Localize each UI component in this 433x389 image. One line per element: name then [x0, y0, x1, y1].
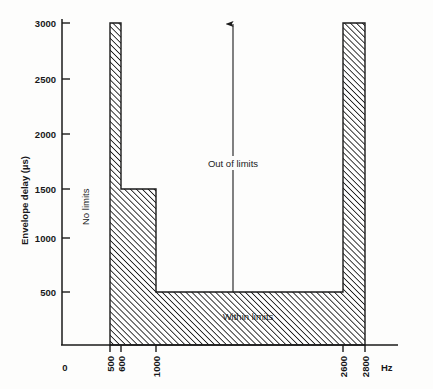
envelope-delay-mask-figure: 500 1000 1500 2000 2500 3000 Envelope de…	[0, 0, 433, 389]
x-tick-label-500: 500	[105, 356, 116, 372]
x-tick-label-2800: 2800	[360, 356, 371, 377]
y-tick-label-2000: 2000	[35, 129, 56, 140]
chart-svg: 500 1000 1500 2000 2500 3000 Envelope de…	[0, 0, 433, 389]
annotation-within-limits: Within limits	[223, 311, 274, 322]
y-tick-label-1000: 1000	[35, 233, 56, 244]
y-tick-label-2500: 2500	[35, 74, 56, 85]
y-tick-label-3000: 3000	[35, 18, 56, 29]
x-axis-unit-label: Hz	[381, 362, 393, 373]
x-tick-label-1000: 1000	[151, 356, 162, 377]
x-tick-label-0: 0	[62, 362, 67, 373]
annotation-out-of-limits: Out of limits	[208, 158, 258, 169]
x-tick-label-2600: 2600	[338, 356, 349, 377]
annotation-no-limits: No limits	[80, 188, 91, 225]
annotation-out-of-limits-group: Out of limits	[196, 156, 271, 170]
y-tick-label-500: 500	[40, 287, 56, 298]
y-tick-label-1500: 1500	[35, 184, 56, 195]
x-tick-label-600: 600	[116, 356, 127, 372]
y-axis-title: Envelope delay (µs)	[19, 156, 30, 245]
